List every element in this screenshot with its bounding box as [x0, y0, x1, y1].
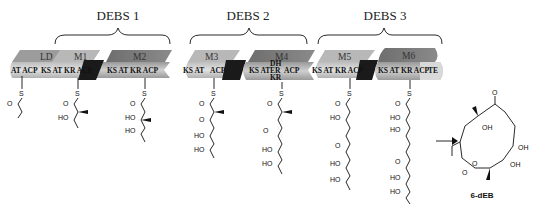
- svg-text:O: O: [472, 160, 478, 167]
- intermediate-ld: S O: [7, 76, 24, 118]
- brace-debs3: [318, 28, 442, 44]
- domains-m1: KS AT KR ACP: [41, 66, 93, 75]
- svg-text:HO: HO: [262, 160, 273, 167]
- domains-m4-a: KS AT: [249, 66, 270, 75]
- svg-text:HO: HO: [390, 126, 401, 133]
- domain-m4-kr: KR: [270, 73, 282, 82]
- domains-m2: KS AT KR ACP: [107, 66, 159, 75]
- svg-text:HO: HO: [125, 127, 136, 134]
- svg-text:HO: HO: [330, 160, 341, 167]
- brace-debs2: [190, 28, 307, 44]
- module-label-m6: M6: [402, 51, 415, 61]
- svg-text:OH: OH: [518, 144, 529, 151]
- svg-text:OH: OH: [510, 161, 521, 168]
- group-title-debs1: DEBS 1: [97, 8, 140, 23]
- group-title-debs3: DEBS 3: [364, 8, 407, 23]
- module-label-ld: LD: [40, 52, 53, 62]
- module-label-m5: M5: [338, 52, 351, 62]
- module-label-m2: M2: [133, 52, 146, 62]
- arrow-icon: [436, 137, 458, 145]
- svg-text:S: S: [142, 90, 147, 97]
- svg-text:S: S: [19, 90, 24, 97]
- svg-text:O: O: [492, 89, 498, 96]
- svg-text:HO: HO: [390, 174, 401, 181]
- domain-m6-te: TE: [428, 66, 438, 75]
- svg-text:O: O: [395, 100, 401, 107]
- debs1-bar: [10, 50, 172, 80]
- debs-diagram: DEBS 1 DEBS 2 DEBS 3 LD M1 M2 AT ACP KS …: [0, 0, 540, 209]
- product-6deb-structure: O OH OH OH O O: [452, 89, 529, 180]
- module-label-m1: M1: [74, 52, 87, 62]
- debs3-bar: [316, 48, 444, 80]
- svg-text:S: S: [347, 90, 352, 97]
- svg-text:S: S: [407, 90, 412, 97]
- svg-text:S: S: [75, 90, 80, 97]
- svg-text:O: O: [335, 142, 341, 149]
- svg-text:O: O: [130, 100, 136, 107]
- domains-ld: AT ACP: [11, 66, 38, 75]
- domains-m3-b: ACP: [210, 66, 226, 75]
- intermediate-m4: S O O HO HO: [262, 82, 292, 174]
- svg-text:HO: HO: [194, 146, 205, 153]
- module-label-m3: M3: [205, 52, 218, 62]
- svg-text:HO: HO: [58, 114, 69, 121]
- svg-text:HO: HO: [262, 146, 273, 153]
- svg-text:S: S: [211, 90, 216, 97]
- svg-text:HO: HO: [390, 188, 401, 195]
- svg-text:HO: HO: [125, 114, 136, 121]
- svg-text:HO: HO: [390, 114, 401, 121]
- svg-text:OH: OH: [482, 124, 493, 131]
- svg-text:O: O: [395, 158, 401, 165]
- svg-text:O: O: [335, 100, 341, 107]
- intermediate-m3: S O O HO HO: [194, 78, 224, 158]
- svg-text:S: S: [279, 90, 284, 97]
- svg-text:O: O: [7, 100, 13, 107]
- intermediate-m6: S O HO HO O HO HO: [390, 80, 412, 204]
- product-label: 6-dEB: [470, 191, 493, 200]
- linker-2: [222, 60, 246, 80]
- intermediate-m1: S O HO: [58, 78, 88, 128]
- intermediate-m5: S O HO O HO HO: [330, 78, 352, 190]
- domains-m3-a: KS AT: [183, 66, 204, 75]
- domain-m4-acp: ACP: [284, 66, 300, 75]
- svg-text:O: O: [199, 100, 205, 107]
- svg-text:O: O: [462, 169, 468, 176]
- svg-text:O: O: [199, 116, 205, 123]
- svg-text:HO: HO: [194, 132, 205, 139]
- domains-m6: KS AT KR ACP: [378, 66, 430, 75]
- intermediate-m2: S O HO HO: [125, 78, 151, 142]
- svg-text:HO: HO: [330, 176, 341, 183]
- domains-m5: KS AT KR ACP: [312, 66, 364, 75]
- brace-debs1: [55, 28, 170, 44]
- group-title-debs2: DEBS 2: [227, 8, 270, 23]
- svg-text:O: O: [263, 127, 269, 134]
- svg-text:HO: HO: [330, 114, 341, 121]
- svg-text:O: O: [63, 100, 69, 107]
- svg-text:O: O: [267, 100, 273, 107]
